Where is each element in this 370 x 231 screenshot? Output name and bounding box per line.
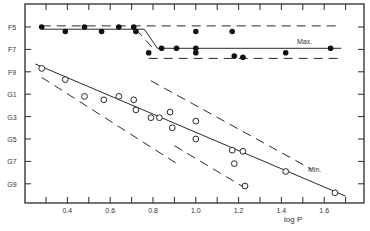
y-tick-label: G5 [7, 136, 16, 143]
x-tick-label: 1.2 [234, 207, 244, 214]
max-point [193, 29, 199, 35]
x-tick-label: 1.6 [319, 207, 329, 214]
min-fit-line [35, 64, 345, 196]
min-lower-dash-2-line [174, 146, 249, 191]
min-point [193, 136, 199, 142]
chart: 0.40.60.81.01.21.41.6 F5F7F9G1G3G5G7G9 l… [0, 0, 370, 231]
max-point [229, 29, 235, 35]
max-point [116, 24, 122, 30]
max-point [232, 53, 238, 59]
min-point [131, 97, 137, 103]
min-point [133, 107, 139, 113]
min-lower-dash-1-line [42, 77, 179, 164]
min-annotation: Min. [308, 166, 321, 173]
max-point [133, 29, 139, 35]
max-point [63, 29, 69, 35]
x-tick-label: 1.4 [277, 207, 287, 214]
min-point [332, 190, 338, 196]
min-point [157, 115, 163, 121]
max-point [328, 46, 334, 52]
min-upper-dash-line [151, 81, 312, 169]
min-point [101, 97, 107, 103]
y-tick-label: F7 [8, 46, 16, 53]
max-point [82, 24, 88, 30]
x-axis-label: log P [284, 215, 302, 224]
y-tick-label: G3 [7, 114, 16, 121]
min-point [82, 94, 88, 100]
y-tick-label: F5 [8, 24, 16, 31]
max-point [283, 50, 289, 56]
y-tick-label: F9 [8, 69, 16, 76]
min-point [148, 115, 154, 121]
min-point [39, 66, 45, 72]
max-annotation: Max. [297, 38, 312, 45]
x-axis-ticks: 0.40.60.81.01.21.41.6 [46, 4, 346, 214]
x-tick-label: 0.8 [148, 207, 158, 214]
max-point [146, 50, 152, 56]
min-point [193, 118, 199, 124]
min-point [231, 161, 237, 167]
max-point [39, 24, 45, 30]
max-point [240, 54, 246, 60]
y-tick-label: G1 [7, 91, 16, 98]
min-point [229, 147, 235, 153]
y-tick-label: G7 [7, 158, 16, 165]
x-tick-label: 0.4 [63, 207, 73, 214]
y-tick-label: G9 [7, 181, 16, 188]
min-point [240, 148, 246, 154]
min-point [169, 125, 175, 131]
min-point [167, 109, 173, 115]
max-point [99, 29, 105, 35]
data-points [39, 24, 338, 196]
x-tick-label: 1.0 [191, 207, 201, 214]
min-point [116, 94, 122, 100]
x-tick-label: 0.6 [105, 207, 115, 214]
max-point [174, 46, 180, 52]
fit-lines [35, 26, 345, 196]
max-point [159, 46, 165, 52]
min-point [242, 183, 248, 189]
min-point [62, 77, 68, 83]
max-point [193, 50, 199, 56]
min-point [283, 169, 289, 175]
